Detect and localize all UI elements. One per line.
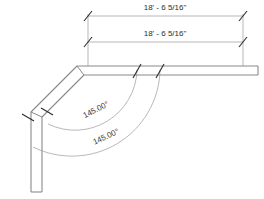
angle-label-outer: 145.00° <box>92 127 121 147</box>
technical-drawing-canvas: 18' - 6 5/16" 18' - 6 5/16" <box>0 0 264 199</box>
linear-dimension-lower: 18' - 6 5/16" <box>84 29 247 47</box>
duct-inner-edge <box>42 75 258 192</box>
cad-drawing: 18' - 6 5/16" 18' - 6 5/16" <box>0 0 264 199</box>
angle-label-inner: 145.00° <box>81 99 110 120</box>
duct-run-geometry <box>31 66 258 192</box>
dimension-label-lower: 18' - 6 5/16" <box>144 29 187 38</box>
dimension-label-upper: 18' - 6 5/16" <box>144 3 187 12</box>
duct-body-fill <box>31 66 258 192</box>
angle-arc-inner <box>48 70 137 130</box>
